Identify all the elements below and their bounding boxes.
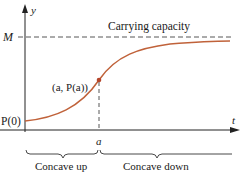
inflection-point-label: (a, P(a)) <box>52 81 88 94</box>
concave-down-brace <box>100 150 232 158</box>
carrying-capacity-label: Carrying capacity <box>108 20 190 33</box>
concave-down-label: Concave down <box>123 160 189 172</box>
y-axis-arrow-icon <box>22 4 28 13</box>
x-axis-label: t <box>232 114 236 126</box>
x-axis-arrow-icon <box>230 127 240 133</box>
concave-up-brace <box>26 150 98 158</box>
a-tick-label: a <box>96 135 102 147</box>
concave-up-label: Concave up <box>35 160 88 172</box>
inflection-point <box>97 78 102 83</box>
p0-label: P(0) <box>1 115 21 128</box>
y-axis-label: y <box>30 4 36 16</box>
m-label: M <box>2 30 14 44</box>
logistic-diagram: y t M Carrying capacity (a, P(a)) P(0) a… <box>0 0 250 173</box>
